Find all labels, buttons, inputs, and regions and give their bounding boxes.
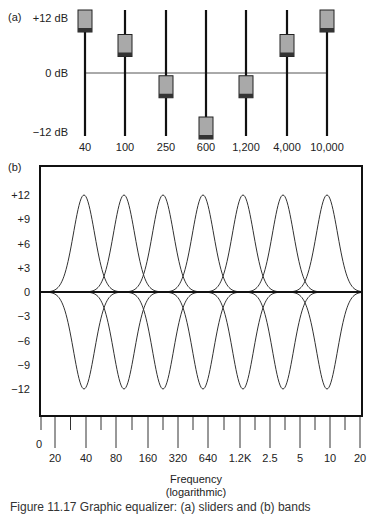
- panel-a: (a) +12 dB 0 dB −12 dB 401002506001,2004…: [8, 10, 344, 153]
- fader-knob[interactable]: [118, 35, 132, 57]
- fader-group: [78, 10, 334, 139]
- y-tick-label: −6: [17, 335, 30, 347]
- y-label-minus12: −12 dB: [33, 126, 68, 138]
- boost-curve: [282, 195, 361, 292]
- boost-curve: [158, 195, 248, 292]
- x-tick-label: 80: [110, 452, 122, 464]
- cut-curve: [282, 292, 361, 389]
- fader-freq-label: 40: [79, 141, 91, 153]
- fader-knob[interactable]: [159, 76, 173, 98]
- fader-freq-label: 1,200: [232, 141, 260, 153]
- fader-knob[interactable]: [280, 35, 294, 57]
- x-tick-label: 40: [80, 452, 92, 464]
- fader-freq-labels: 401002506001,2004,00010,000: [79, 141, 344, 153]
- fader-knob[interactable]: [239, 76, 253, 98]
- y-tick-label: +3: [17, 262, 30, 274]
- x-tick-label: 20: [354, 452, 366, 464]
- x-tick-label: 1.2K: [229, 452, 252, 464]
- x-zero-label: 0: [36, 438, 42, 450]
- panel-b-label: (b): [8, 161, 21, 173]
- panel-b: (b) +12+9+6+30−3−6−9−12 0 20408016032064…: [8, 161, 366, 498]
- cut-curve: [79, 292, 169, 389]
- figure-caption: Figure 11.17 Graphic equalizer: (a) slid…: [10, 500, 311, 514]
- boost-curve: [79, 195, 169, 292]
- fader-knob[interactable]: [78, 10, 92, 32]
- boost-curve: [118, 195, 208, 292]
- x-axis-subtitle: (logarithmic): [166, 486, 227, 498]
- x-tick-label: 20: [49, 452, 61, 464]
- fader-knob[interactable]: [320, 10, 334, 32]
- y-tick-label: +12: [11, 189, 30, 201]
- x-axis-title: Frequency: [170, 473, 222, 485]
- x-tick-label: 5: [297, 452, 303, 464]
- y-tick-label: 0: [24, 286, 30, 298]
- fader-freq-label: 4,000: [273, 141, 301, 153]
- cut-curve: [118, 292, 208, 389]
- fader-freq-label: 600: [197, 141, 215, 153]
- x-tick-labels: 2040801603206401.2K2.551020: [49, 452, 366, 464]
- y-tick-label: −3: [17, 310, 30, 322]
- y-label-0: 0 dB: [45, 67, 68, 79]
- y-tick-label: −9: [17, 359, 30, 371]
- x-tick-label: 160: [139, 452, 157, 464]
- boost-curve: [41, 195, 129, 292]
- x-tick-label: 320: [169, 452, 187, 464]
- cut-curve: [158, 292, 248, 389]
- x-tick-label: 10: [324, 452, 336, 464]
- x-ticks: [41, 417, 360, 448]
- y-tick-label: −12: [11, 383, 30, 395]
- y-tick-label: +6: [17, 238, 30, 250]
- cut-curve: [41, 292, 129, 389]
- panel-a-label: (a): [8, 11, 21, 23]
- y-tick-label: +9: [17, 213, 30, 225]
- boost-curve: [198, 195, 288, 292]
- cut-curve: [198, 292, 288, 389]
- fader-knob[interactable]: [199, 117, 213, 139]
- y-tick-labels: +12+9+6+30−3−6−9−12: [11, 189, 30, 395]
- x-tick-label: 2.5: [262, 452, 277, 464]
- fader-freq-label: 100: [116, 141, 134, 153]
- y-label-plus12: +12 dB: [33, 12, 68, 24]
- x-tick-label: 640: [199, 452, 217, 464]
- fader-freq-label: 250: [157, 141, 175, 153]
- fader-freq-label: 10,000: [310, 141, 344, 153]
